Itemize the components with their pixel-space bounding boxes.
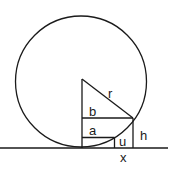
label-x: x (120, 150, 127, 165)
circle (16, 16, 147, 147)
label-u: u (119, 134, 126, 149)
label-a: a (89, 123, 97, 138)
label-b: b (89, 104, 96, 119)
label-h: h (140, 128, 147, 143)
circle-geometry-diagram: r b a h u x (0, 0, 176, 173)
label-r: r (108, 86, 113, 101)
